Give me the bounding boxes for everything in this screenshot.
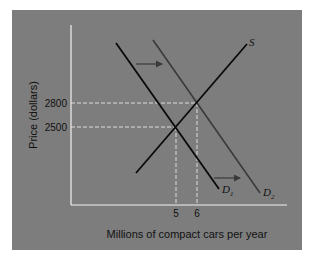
supply-demand-chart: S D1 D2 2800 2500 5 6 Price (dollars) Mi… xyxy=(0,0,311,259)
supply-label: S xyxy=(249,36,255,48)
y-axis-title: Price (dollars) xyxy=(27,81,39,149)
x-tick-5: 5 xyxy=(173,208,179,219)
d1-label: D1 xyxy=(221,183,233,198)
d2-label: D2 xyxy=(262,186,275,201)
y-tick-2800: 2800 xyxy=(45,98,68,109)
supply-curve xyxy=(136,44,247,173)
demand-curve-d1 xyxy=(116,43,219,189)
x-tick-6: 6 xyxy=(194,208,200,219)
dashed-guides xyxy=(71,103,197,205)
y-tick-2500: 2500 xyxy=(45,122,68,133)
x-axis-title: Millions of compact cars per year xyxy=(107,228,268,240)
